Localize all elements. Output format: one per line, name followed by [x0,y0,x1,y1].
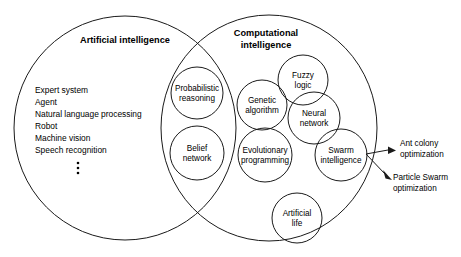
circle-neural-network [288,92,340,144]
label-genetic-algorithm-line1: Genetic [248,96,276,105]
label-belief-network-line2: network [183,154,213,163]
label-probabilistic-reasoning-line2: reasoning [179,94,215,103]
title-artificial-intelligence: Artificial intelligence [80,35,170,45]
title-computational-intelligence-line2: intelligence [241,40,292,50]
label-evolutionary-programming-line1: Evolutionary [242,146,288,155]
callout-ant-colony-optimization-line2: optimization [400,150,444,159]
circle-fuzzy-logic [278,55,328,105]
circle-artificial-life [272,193,322,243]
title-computational-intelligence-line1: Computational [234,28,298,38]
arrow-ant-colony-optimization [366,147,396,155]
label-evolutionary-programming-line2: programming [241,156,290,165]
label-swarm-intelligence-line2: intelligence [321,156,362,165]
label-fuzzy-logic-line1: Fuzzy [292,71,315,80]
circle-probabilistic-reasoning [171,67,223,119]
ai-list-item-expert-system: Expert system [35,85,88,95]
label-neural-network-line1: Neural [302,109,326,118]
ai-list-item-speech-recognition: Speech recognition [35,145,107,155]
circle-evolutionary-programming [238,128,292,182]
ai-list-ellipsis [77,162,80,175]
ai-list-item-robot: Robot [35,121,58,131]
label-belief-network-line1: Belief [187,144,208,153]
circle-belief-network [170,126,224,180]
label-fuzzy-logic-line2: logic [295,81,312,90]
label-swarm-intelligence-line1: Swarm [328,146,354,155]
ai-list-item-agent: Agent [35,97,58,107]
label-artificial-life-line2: life [292,219,303,228]
ai-list-item-machine-vision: Machine vision [35,133,91,143]
callout-ant-colony-optimization-line1: Ant colony [400,139,439,148]
label-neural-network-line2: network [300,119,330,128]
label-probabilistic-reasoning-line1: Probabilistic [175,84,219,93]
callout-particle-swarm-optimization-line2: optimization [393,184,437,193]
venn-diagram-figure: Artificial intelligence Computational in… [0,0,461,257]
venn-canvas: Artificial intelligence Computational in… [0,0,461,257]
label-artificial-life-line1: Artificial [283,209,312,218]
ai-list-item-natural-language-processing: Natural language processing [35,109,142,119]
callout-particle-swarm-optimization-line1: Particle Swarm [393,173,448,182]
label-genetic-algorithm-line2: algorithm [245,106,279,115]
circle-swarm-intelligence [315,129,367,181]
